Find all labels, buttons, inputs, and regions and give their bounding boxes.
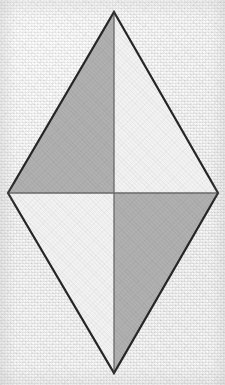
rhombus-figure — [0, 0, 225, 385]
figure-container — [0, 0, 225, 385]
